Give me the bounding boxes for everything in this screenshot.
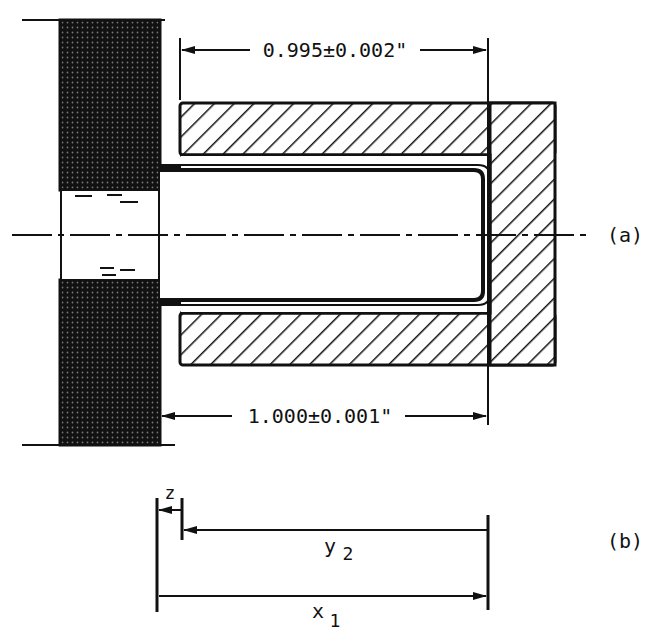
y2-dimension: y 2 <box>184 530 487 564</box>
x1-dimension: x 1 <box>159 596 486 631</box>
y-label: y <box>324 534 336 558</box>
z-dimension: z <box>159 482 181 510</box>
dimension-top-label: 0.995±0.002" <box>263 38 408 62</box>
y-subscript: 2 <box>343 543 354 564</box>
dimension-top: 0.995±0.002" <box>182 38 486 62</box>
dimension-bottom-label: 1.000±0.001" <box>248 404 393 428</box>
part-a-label: (a) <box>607 223 643 247</box>
mechanical-drawing: 0.995±0.002" 1.000±0.001" (a) z y 2 x 1 <box>0 0 667 644</box>
x-subscript: 1 <box>330 610 341 631</box>
part-b-label: (b) <box>607 529 643 553</box>
z-label: z <box>165 482 176 503</box>
x-label: x <box>312 599 324 623</box>
fixture-plate <box>22 20 175 445</box>
dimension-bottom: 1.000±0.001" <box>162 404 486 428</box>
part-a-drawing: 0.995±0.002" 1.000±0.001" (a) <box>12 20 643 445</box>
part-b-drawing: z y 2 x 1 (b) <box>157 482 643 631</box>
